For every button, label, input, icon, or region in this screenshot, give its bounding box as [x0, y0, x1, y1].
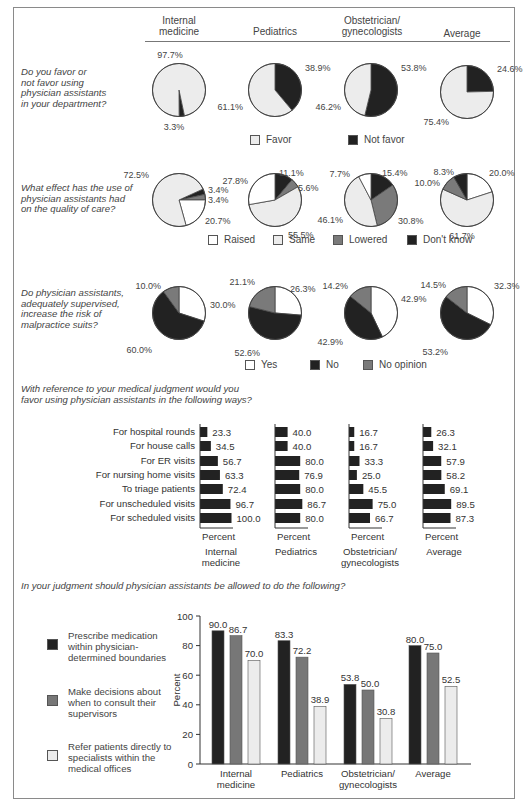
vbar — [230, 636, 242, 764]
hbar-value-label: 25.0 — [362, 470, 381, 481]
hbar-column-label: Average — [426, 546, 462, 557]
vbar-value-label: 50.0 — [361, 678, 380, 689]
hbar-value-label: 23.3 — [212, 427, 231, 438]
vbar-value-label: 53.8 — [341, 672, 360, 683]
hbar-value-label: 58.2 — [446, 470, 465, 481]
hbar-group-1: 40.040.080.076.980.086.780.0PercentPedia… — [275, 424, 326, 557]
pie-2-0: 10.0%30.0%60.0% — [126, 281, 235, 355]
hbar-value-label: 16.7 — [359, 427, 378, 438]
hbar — [423, 513, 450, 523]
hbar-value-label: 16.7 — [359, 441, 378, 452]
hbar — [423, 499, 451, 509]
pie-1-0: 72.5%3.4%3.4%20.7% — [123, 170, 230, 227]
pie-slice — [249, 174, 276, 205]
legend-label: Same — [289, 234, 315, 245]
legend-label: Yes — [261, 359, 277, 370]
pie-2-2: 14.2%42.9%42.9% — [317, 281, 426, 347]
legend-same: Same — [273, 234, 315, 245]
vbar-group-2: 53.850.030.8Obstetrician/gynecologists — [339, 672, 397, 790]
hbar — [275, 427, 288, 437]
pie-2-3: 14.5%32.3%53.2% — [420, 280, 519, 357]
vbar — [212, 631, 224, 764]
hbar — [200, 499, 230, 509]
vbar-value-label: 75.0 — [424, 641, 443, 652]
pie-value-label: 30.8% — [398, 216, 424, 226]
hbar — [423, 441, 433, 451]
pie-value-label: 3.3% — [164, 122, 185, 132]
pie-value-label: 42.9% — [401, 294, 427, 304]
hbar — [200, 484, 223, 494]
hbar-axis-label: Percent — [202, 531, 235, 542]
hbar — [200, 513, 232, 523]
hbar-value-label: 100.0 — [237, 513, 261, 524]
pie-value-label: 61.1% — [217, 102, 243, 112]
legend-lowered: Lowered — [333, 234, 387, 245]
hbar-value-label: 80.0 — [305, 484, 324, 495]
hbar — [349, 513, 370, 523]
hbar — [349, 499, 373, 509]
no-swatch-icon — [310, 360, 320, 370]
vbar-value-label: 52.5 — [442, 674, 461, 685]
y-tick-label: 20 — [182, 729, 193, 740]
pie-0-3: 24.6%75.4% — [423, 64, 522, 127]
hbar — [200, 441, 211, 451]
legend-label: Lowered — [349, 234, 387, 245]
hbar-value-label: 80.0 — [305, 513, 324, 524]
vbar — [278, 641, 290, 764]
pie-value-label: 97.7% — [157, 50, 183, 60]
hbar-value-label: 40.0 — [293, 441, 312, 452]
hbar-axis-label: Percent — [351, 531, 384, 542]
pie-value-label: 38.9% — [305, 63, 331, 73]
hbar — [275, 513, 300, 523]
legend-label: No — [326, 359, 339, 370]
hbar — [349, 456, 359, 466]
legend-label: Not favor — [364, 134, 405, 145]
legend-label: Raised — [224, 234, 255, 245]
legend-not-favor: Not favor — [348, 134, 405, 145]
hbar — [200, 470, 220, 480]
pie-value-label: 14.5% — [420, 280, 446, 290]
pie-value-label: 53.2% — [422, 347, 448, 357]
x-category-label: Obstetrician/ — [341, 768, 395, 779]
pie-value-label: 53.8% — [401, 63, 427, 73]
vbar — [409, 646, 421, 764]
vbar-value-label: 80.0 — [406, 634, 425, 645]
pie-value-label: 75.4% — [423, 117, 449, 127]
vbar — [445, 686, 457, 764]
pie-value-label: 10.0% — [414, 178, 440, 188]
hbar — [275, 484, 300, 494]
y-axis-label: Percent — [171, 673, 182, 706]
pie-value-label: 42.9% — [317, 337, 343, 347]
no-opinion-swatch-icon — [363, 360, 373, 370]
pie-value-label: 32.3% — [494, 281, 520, 291]
legend-dont-know: Don't know — [407, 234, 472, 245]
legend-label: Favor — [266, 134, 292, 145]
pie-value-label: 20.0% — [489, 168, 515, 178]
pie-value-label: 14.2% — [322, 281, 348, 291]
vbar — [314, 706, 326, 764]
pie-value-label: 21.1% — [229, 277, 255, 287]
hbar-value-label: 45.5 — [368, 484, 387, 495]
hbar — [423, 470, 441, 480]
hbar — [349, 470, 357, 480]
hbar — [200, 427, 207, 437]
vbar-value-label: 70.0 — [245, 648, 264, 659]
pie-value-label: 7.7% — [329, 169, 350, 179]
x-category-label: medicine — [217, 779, 255, 790]
legend-label: Don't know — [423, 234, 472, 245]
vbar-value-label: 83.3 — [275, 629, 294, 640]
vbar — [344, 684, 356, 764]
hbar — [349, 484, 363, 494]
x-category-label: Average — [415, 768, 451, 779]
hbar-charts: 23.334.556.763.372.496.7100.0PercentInte… — [0, 400, 523, 575]
hbar-value-label: 34.5 — [216, 441, 235, 452]
hbar-value-label: 69.1 — [450, 484, 469, 495]
hbar — [349, 427, 354, 437]
hbar-value-label: 32.1 — [438, 441, 457, 452]
hbar-value-label: 26.3 — [436, 427, 455, 438]
dont-know-swatch-icon — [407, 235, 417, 245]
pie-value-label: 52.6% — [234, 348, 260, 358]
hbar — [200, 456, 218, 466]
hbar — [275, 441, 288, 451]
vbar — [380, 718, 392, 764]
